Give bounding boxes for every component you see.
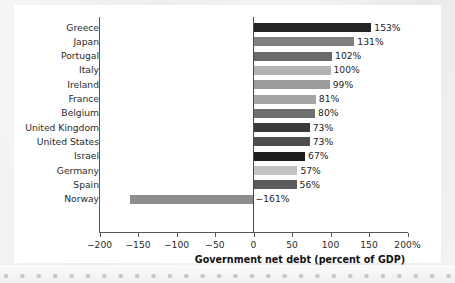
y-axis-line (99, 17, 100, 232)
bar-value-label: 100% (334, 65, 360, 75)
category-label: France (0, 94, 99, 104)
category-label: Belgium (0, 108, 99, 118)
bar (254, 37, 355, 46)
bar (254, 166, 298, 175)
category-label: Norway (0, 194, 99, 204)
x-tick-label: 200% (378, 239, 438, 250)
bar-value-label: 131% (357, 37, 383, 47)
x-axis-title: Government net debt (percent of GDP) (180, 254, 420, 265)
bar-chart: GreeceJapanPortugalItalyIrelandFranceBel… (0, 0, 455, 283)
bar (254, 123, 310, 132)
bar (254, 80, 330, 89)
category-label: United Kingdom (0, 123, 99, 133)
category-label: Spain (0, 180, 99, 190)
bar-value-label: 102% (335, 51, 361, 61)
bar (254, 23, 372, 32)
bar-value-label: 56% (300, 180, 320, 190)
bar-value-label: 81% (319, 94, 339, 104)
bar (130, 195, 254, 204)
x-tick (177, 233, 178, 237)
bar-value-label: 73% (313, 137, 333, 147)
bar (254, 137, 310, 146)
category-label: Portugal (0, 51, 99, 61)
bar-value-label: 57% (300, 166, 320, 176)
x-tick (100, 233, 101, 237)
bar-value-label: 153% (374, 23, 400, 33)
bar-value-label: −161% (256, 194, 290, 204)
category-label: Italy (0, 65, 99, 75)
category-label: Israel (0, 151, 99, 161)
x-tick (292, 233, 293, 237)
bar (254, 180, 297, 189)
bar-value-label: 80% (318, 108, 338, 118)
category-label: Greece (0, 23, 99, 33)
scan-edge-artifacts (0, 265, 455, 283)
x-tick (138, 233, 139, 237)
category-label: Ireland (0, 80, 99, 90)
category-label: Japan (0, 37, 99, 47)
bar (254, 66, 331, 75)
scanned-page: GreeceJapanPortugalItalyIrelandFranceBel… (0, 0, 455, 283)
bar-value-label: 67% (308, 151, 328, 161)
bar (254, 109, 316, 118)
x-tick (369, 233, 370, 237)
bar (254, 152, 306, 161)
x-tick (215, 233, 216, 237)
category-label: United States (0, 137, 99, 147)
x-tick (254, 233, 255, 237)
bar (254, 52, 333, 61)
bar-value-label: 99% (333, 80, 353, 90)
category-label: Germany (0, 166, 99, 176)
bar (254, 95, 316, 104)
x-tick (331, 233, 332, 237)
bar-value-label: 73% (313, 123, 333, 133)
x-tick (408, 233, 409, 237)
